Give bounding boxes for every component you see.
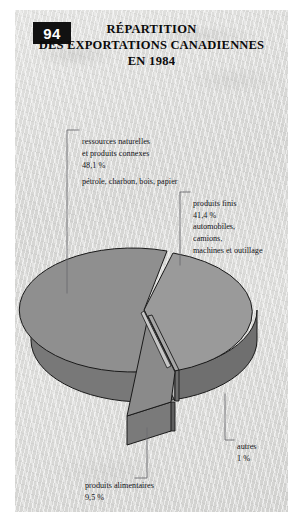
label-finished-example-3: machines et outillage [193,246,263,255]
leader-line-other [225,394,234,440]
figure-content: 94 RÉPARTITION DES EXPORTATIONS CANADIEN… [15,10,288,512]
label-finished-percent: 41,4 % [193,210,236,222]
label-finished-line-1: produits finis [193,199,236,208]
label-food-percent: 9,5 % [85,492,154,504]
label-natural-resources: ressources naturelles et produits connex… [82,136,150,172]
label-natural-line-2: et produits connexes [82,149,149,158]
label-food-examples: blé, fruits de mer [85,510,141,512]
label-natural-percent: 48,1 % [82,160,150,172]
label-finished-example-1: automobiles, [193,222,235,231]
label-finished-examples: automobiles, camions, machines et outill… [193,221,263,257]
label-other-percent: 1 % [237,453,257,465]
label-natural-line-1: ressources naturelles [82,137,150,146]
pie-slice-other-side [175,370,179,401]
label-natural-examples: pétrole, charbon, bois, papier [82,176,178,188]
label-finished-example-2: camions, [193,234,222,243]
leader-line-finished [180,192,190,265]
label-finished-goods: produits finis 41,4 % [193,198,236,222]
label-other: autres 1 % [237,441,257,465]
label-food-products: produits alimentaires 9,5 % [85,480,154,504]
pie-chart-3d [15,10,288,512]
figure-panel: 94 RÉPARTITION DES EXPORTATIONS CANADIEN… [15,10,288,512]
label-food-line-1: produits alimentaires [85,481,154,490]
label-other-line-1: autres [237,442,257,451]
